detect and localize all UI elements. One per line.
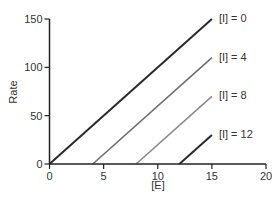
series-line <box>179 135 212 164</box>
series-line <box>50 19 212 164</box>
chart-canvas: 05101520050100150 [I] = 0[I] = 4[I] = 8[… <box>0 0 276 207</box>
y-tick-label: 100 <box>24 61 42 73</box>
x-tick-label: 15 <box>206 170 218 182</box>
y-axis-label: Rate <box>7 80 19 103</box>
series-label: [I] = 0 <box>219 12 247 24</box>
y-tick-label: 150 <box>24 13 42 25</box>
series-label: [I] = 4 <box>219 51 247 63</box>
series-layer <box>50 19 212 164</box>
x-tick-label: 0 <box>46 170 52 182</box>
y-tick-label: 0 <box>36 158 42 170</box>
x-tick-label: 20 <box>260 170 272 182</box>
x-axis-label: [E] <box>151 179 164 191</box>
x-tick-label: 5 <box>101 170 107 182</box>
y-tick-label: 50 <box>30 110 42 122</box>
series-label: [I] = 12 <box>219 128 253 140</box>
series-labels: [I] = 0[I] = 4[I] = 8[I] = 12 <box>219 12 253 140</box>
series-label: [I] = 8 <box>219 89 247 101</box>
series-line <box>93 58 212 164</box>
series-line <box>136 96 212 164</box>
